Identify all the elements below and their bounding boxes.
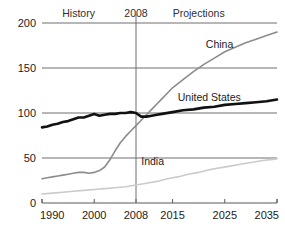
annotation-projections: Projections — [173, 7, 225, 19]
series-label-united-states: United States — [178, 91, 241, 103]
x-tick-labels: 199020002008201520252035 — [40, 209, 279, 221]
line-chart: 050100150200 199020002008201520252035 Hi… — [0, 0, 285, 236]
x-axis — [42, 199, 277, 203]
period-annotations: History2008Projections — [62, 7, 224, 19]
series-labels: ChinaUnited StatesIndia — [141, 38, 241, 167]
y-tick-label-50: 50 — [24, 152, 36, 164]
gridlines — [42, 23, 277, 158]
series-label-china: China — [206, 38, 234, 50]
x-tick-label-2025: 2025 — [213, 209, 237, 221]
annotation-history: History — [62, 7, 95, 19]
x-tick-label-2008: 2008 — [124, 209, 148, 221]
x-tick-label-2015: 2015 — [160, 209, 184, 221]
y-tick-label-0: 0 — [30, 197, 36, 209]
x-tick-label-2000: 2000 — [82, 209, 106, 221]
series-label-india: India — [141, 155, 164, 167]
y-tick-label-150: 150 — [18, 62, 36, 74]
annotation-divider-year: 2008 — [124, 7, 148, 19]
chart-container: 050100150200 199020002008201520252035 Hi… — [0, 0, 285, 236]
y-tick-label-200: 200 — [18, 17, 36, 29]
x-tick-label-1990: 1990 — [40, 209, 64, 221]
y-tick-label-100: 100 — [18, 107, 36, 119]
y-tick-labels: 050100150200 — [18, 17, 36, 209]
x-tick-label-2035: 2035 — [255, 209, 279, 221]
